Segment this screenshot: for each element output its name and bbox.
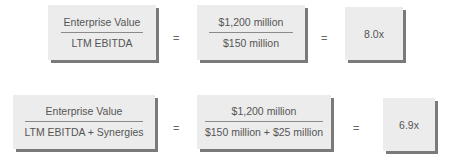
multiple-result: 8.0x	[364, 28, 384, 40]
equals-sign: =	[173, 32, 179, 44]
fraction-bar	[205, 121, 323, 122]
fraction-bar	[25, 121, 143, 122]
ev-ebitda-synergies-values-box: $1,200 million $150 million + $25 millio…	[197, 95, 331, 149]
values-denominator: $150 million	[223, 37, 279, 50]
values-numerator: $1,200 million	[232, 105, 297, 118]
equals-sign: =	[353, 122, 359, 134]
multiple-result: 6.9x	[399, 119, 419, 131]
values-denominator: $150 million + $25 million	[205, 126, 323, 139]
fraction-bar	[61, 32, 143, 33]
formula-numerator: Enterprise Value	[46, 105, 123, 118]
ev-ebitda-values-box: $1,200 million $150 million	[197, 5, 305, 60]
ev-ebitda-formula-box: Enterprise Value LTM EBITDA	[48, 5, 156, 60]
formula-denominator: LTM EBITDA + Synergies	[24, 126, 143, 139]
equals-sign: =	[321, 32, 327, 44]
formula-numerator: Enterprise Value	[64, 16, 141, 29]
values-numerator: $1,200 million	[219, 16, 284, 29]
equals-sign: =	[173, 122, 179, 134]
fraction-bar	[209, 32, 293, 33]
formula-denominator: LTM EBITDA	[71, 37, 132, 50]
ev-ebitda-synergies-formula-box: Enterprise Value LTM EBITDA + Synergies	[13, 95, 155, 149]
ev-ebitda-synergies-result-box: 6.9x	[383, 98, 435, 151]
ev-ebitda-result-box: 8.0x	[345, 7, 403, 60]
